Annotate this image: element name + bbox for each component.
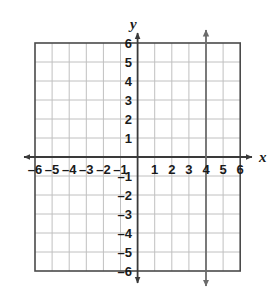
y-tick-label-2: 2	[103, 113, 132, 126]
y-axis-label: y	[130, 17, 137, 32]
y-tick-label--1: –1	[103, 170, 132, 183]
y-tick-label--3: –3	[103, 208, 132, 221]
y-tick-label-6: 6	[103, 37, 132, 50]
y-tick-label-5: 5	[103, 56, 132, 69]
y-tick-label--5: –5	[103, 246, 132, 259]
x-tick-label-6: 6	[228, 163, 252, 176]
y-tick-label-3: 3	[103, 94, 132, 107]
y-tick-label--2: –2	[103, 189, 132, 202]
coordinate-plane-graph: –6 –5 –4 –3 –2 –1 1 2 3 4 5 6 6 5 4 3 2 …	[0, 0, 278, 294]
y-tick-label--4: –4	[103, 227, 132, 240]
y-tick-label--6: –6	[103, 265, 132, 278]
y-tick-label-1: 1	[103, 132, 132, 145]
y-tick-label-4: 4	[103, 75, 132, 88]
graph-canvas	[0, 0, 278, 294]
x-axis-label: x	[259, 150, 267, 165]
